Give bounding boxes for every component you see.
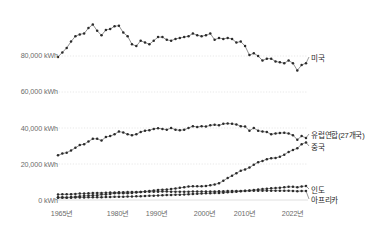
data-point [74, 147, 77, 150]
data-point [200, 190, 203, 193]
data-point [126, 191, 129, 194]
series-label-usa: 미국 [311, 52, 325, 63]
data-point [274, 60, 277, 63]
data-point [218, 182, 221, 185]
data-point [226, 190, 229, 193]
data-point [61, 152, 64, 155]
data-point [161, 194, 164, 197]
series-label-european-union: 유럽연합(27개국) [311, 129, 365, 140]
x-tick-label-2022: 2022년 [273, 208, 313, 218]
data-point [192, 185, 195, 188]
y-tick-label-40000: 40,000 kWh [0, 124, 58, 133]
data-point [179, 129, 182, 132]
x-tick-label-1990: 1990년 [137, 208, 177, 218]
data-point [183, 186, 186, 189]
data-point [266, 131, 269, 134]
data-point [200, 125, 203, 128]
data-point [135, 133, 138, 136]
data-point [109, 191, 112, 194]
data-point [122, 131, 125, 134]
data-point [205, 185, 208, 188]
energy-per-capita-line-chart: 80,000 kWh 60,000 kWh 40,000 kWh 20,000 … [0, 0, 385, 234]
series-line-2 [58, 142, 306, 197]
data-point [174, 129, 177, 132]
data-point [296, 147, 299, 150]
data-point [187, 127, 190, 130]
data-point [152, 194, 155, 197]
data-point [174, 190, 177, 193]
data-point [92, 196, 95, 199]
data-point [179, 193, 182, 196]
data-point [222, 123, 225, 126]
data-point [148, 129, 151, 132]
data-point [157, 190, 160, 193]
data-point [109, 28, 112, 31]
data-point [122, 196, 125, 199]
data-point [174, 187, 177, 190]
data-point [109, 135, 112, 138]
data-point [170, 194, 173, 197]
data-point [253, 127, 256, 130]
data-point [300, 143, 303, 146]
label-leader-line-4 [306, 191, 309, 199]
data-point [170, 190, 173, 193]
data-point [244, 125, 247, 128]
data-point [174, 194, 177, 197]
data-point [144, 195, 147, 198]
data-point [261, 59, 264, 62]
data-point [226, 177, 229, 180]
data-point [239, 125, 242, 128]
data-point [287, 59, 290, 62]
data-point [92, 138, 95, 141]
data-point [200, 185, 203, 188]
data-point [257, 161, 260, 164]
data-point [300, 64, 303, 67]
data-point [126, 35, 129, 38]
data-point [292, 134, 295, 137]
data-point [209, 32, 212, 35]
data-point [179, 37, 182, 40]
data-point [235, 190, 238, 193]
data-point [83, 32, 86, 35]
data-point [244, 45, 247, 48]
data-point [257, 129, 260, 132]
data-point [118, 196, 121, 199]
data-point [70, 149, 73, 152]
series-label-china: 중국 [311, 141, 325, 152]
data-point [213, 124, 216, 127]
data-point [239, 190, 242, 193]
data-point [187, 190, 190, 193]
data-point [87, 27, 90, 30]
data-point [270, 133, 273, 136]
data-point [57, 154, 60, 157]
data-point [231, 190, 234, 193]
data-point [261, 130, 264, 133]
series-label-africa: 아프리카 [311, 194, 338, 205]
data-point [109, 196, 112, 199]
data-point [209, 124, 212, 127]
data-point [92, 192, 95, 195]
data-point [300, 185, 303, 188]
data-point [113, 196, 116, 199]
data-point [70, 40, 73, 43]
data-point [248, 166, 251, 169]
data-point [70, 193, 73, 196]
data-point [161, 190, 164, 193]
data-point [100, 192, 103, 195]
series-markers-group [57, 23, 308, 199]
data-point [244, 168, 247, 171]
data-point [135, 195, 138, 198]
y-tick-label-60000: 60,000 kWh [0, 87, 58, 96]
data-point [300, 190, 303, 193]
data-point [131, 134, 134, 137]
data-point [79, 192, 82, 195]
data-point [218, 124, 221, 127]
data-point [196, 34, 199, 37]
data-point [122, 191, 125, 194]
data-point [292, 190, 295, 193]
data-point [131, 195, 134, 198]
data-point [192, 32, 195, 35]
data-point [235, 123, 238, 126]
data-point [139, 195, 142, 198]
series-line-4 [58, 191, 306, 195]
